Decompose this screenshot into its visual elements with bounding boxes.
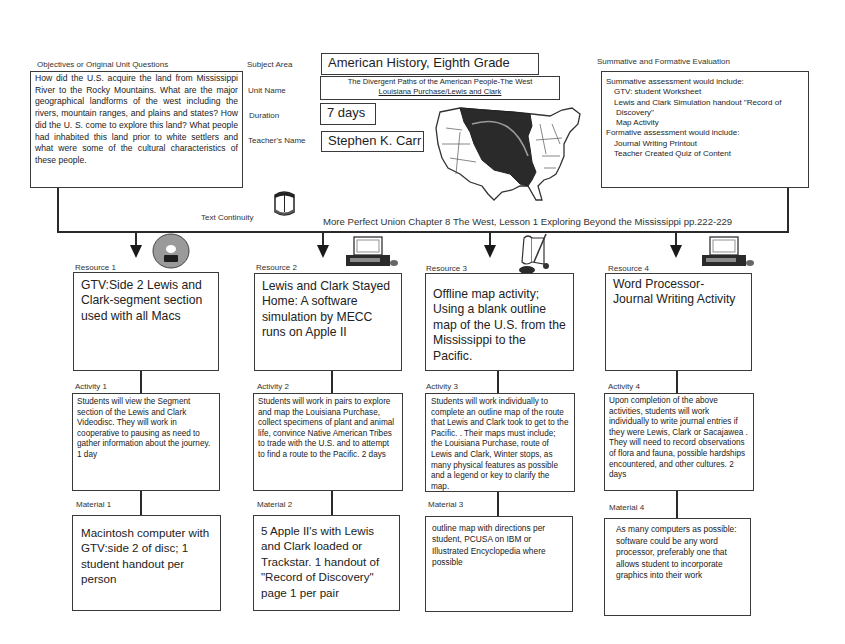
formative-item: Teacher Created Quiz of Content (606, 149, 804, 159)
objectives-text: How did the U.S. acquire the land from M… (35, 73, 238, 165)
activity-box: Students will view the Segment section o… (72, 393, 220, 491)
activity-label: Activity 1 (75, 382, 107, 391)
connector-drop (331, 371, 333, 393)
summative-item: GTV: student Worksheet (606, 87, 804, 97)
scroll-quill-icon (518, 232, 552, 276)
material-label: Material 2 (257, 500, 292, 509)
resource-text: Lewis and Clark Stayed Home: A software … (262, 279, 390, 339)
resource-label: Resource 2 (256, 263, 297, 272)
unit-name-field: The Divergent Paths of the American Peop… (320, 76, 560, 100)
resource-box: GTV:Side 2 Lewis and Clark-segment secti… (73, 272, 219, 371)
resource-label: Resource 4 (608, 264, 649, 273)
resource-label: Resource 1 (75, 263, 116, 272)
resource-box: Lewis and Clark Stayed Home: A software … (254, 273, 402, 371)
material-text: Macintosh computer with GTV:side 2 of di… (81, 526, 209, 585)
summative-item: Map Activity (606, 118, 804, 128)
activity-text: Upon completion of the above activities,… (609, 396, 748, 479)
formative-heading: Formative assessment would include: (606, 128, 804, 138)
evaluation-label: Summative and Formative Evaluation (597, 57, 730, 66)
material-label: Material 3 (428, 500, 463, 509)
activity-label: Activity 4 (608, 382, 640, 391)
arrow-down-icon (670, 245, 682, 258)
summative-item: Discovery" (606, 108, 804, 118)
resource-label: Resource 3 (426, 264, 467, 273)
duration-value: 7 days (327, 105, 365, 120)
duration-label: Duration (249, 111, 279, 120)
activity-label: Activity 2 (257, 382, 289, 391)
material-label: Material 1 (76, 500, 111, 509)
connector-drop (331, 491, 333, 516)
connector-drop (140, 371, 142, 393)
activity-label: Activity 3 (426, 382, 458, 391)
resource-text: GTV:Side 2 Lewis and Clark-segment secti… (81, 278, 202, 323)
videodisc-icon (151, 232, 191, 270)
material-text: 5 Apple II's with Lewis and Clark loaded… (261, 524, 379, 599)
resource-text: Word Processor- Journal Writing Activity (613, 277, 735, 306)
unit-name-line1: The Divergent Paths of the American Peop… (321, 77, 559, 87)
text-continuity-text: More Perfect Union Chapter 8 The West, L… (323, 216, 732, 227)
activity-box: Students will work in pairs to explore a… (253, 393, 403, 491)
activity-text: Students will work in pairs to explore a… (258, 397, 394, 459)
resource-text: Offline map activity; Using a blank outl… (433, 287, 566, 363)
summative-item: Lewis and Clark Simulation handout "Reco… (606, 98, 804, 108)
book-icon (272, 190, 297, 218)
arrow-down-icon (484, 245, 496, 258)
connector-drop (497, 492, 499, 516)
summative-heading: Summative assessment would include: (606, 77, 804, 87)
material-label: Material 4 (609, 503, 644, 512)
teacher-field: Stephen K. Carr (321, 131, 424, 152)
duration-field: 7 days (320, 103, 376, 125)
connector-left-vertical (57, 188, 59, 232)
connector-drop (140, 491, 142, 516)
resource-box: Offline map activity; Using a blank outl… (425, 273, 574, 371)
subject-area-value: American History, Eighth Grade (328, 55, 510, 70)
computer-icon (700, 236, 756, 268)
arrow-down-icon (130, 245, 142, 258)
subject-area-label: Subject Area (247, 60, 292, 69)
teacher-value: Stephen K. Carr (328, 133, 421, 148)
activity-text: Students will view the Segment section o… (77, 397, 210, 459)
material-box: 5 Apple II's with Lewis and Clark loaded… (253, 515, 400, 611)
subject-area-field: American History, Eighth Grade (321, 53, 539, 75)
connector-right-vertical (787, 188, 789, 232)
material-box: outline map with directions per student,… (425, 516, 573, 612)
teacher-label: Teacher's Name (248, 136, 306, 145)
evaluation-box: Summative assessment would include: GTV:… (601, 71, 809, 188)
objectives-label: Objectives or Original Unit Questions (37, 60, 168, 69)
material-box: Macintosh computer with GTV:side 2 of di… (72, 515, 221, 611)
objectives-box: How did the U.S. acquire the land from M… (30, 71, 243, 188)
connector-drop (676, 491, 678, 518)
activity-box: Students will work individually to compl… (425, 393, 575, 492)
connector-drop (676, 371, 678, 393)
activity-box: Upon completion of the above activities,… (604, 393, 754, 491)
unit-name-line2: Louisiana Purchase/Lewis and Clark (321, 87, 559, 97)
text-continuity-label: Text Continuity (201, 213, 253, 222)
computer-icon (344, 236, 400, 268)
material-text: outline map with directions per student,… (432, 523, 546, 567)
unit-name-label: Unit Name (248, 86, 286, 95)
arrow-down-icon (317, 245, 329, 258)
activity-text: Students will work individually to compl… (431, 397, 568, 491)
formative-item: Journal Writing Printout (606, 139, 804, 149)
resource-box: Word Processor- Journal Writing Activity (605, 273, 752, 371)
material-box: As many computers as possible: software … (604, 518, 751, 616)
connector-drop (497, 371, 499, 393)
us-map-louisiana-purchase-icon (432, 104, 592, 204)
material-text: As many computers as possible: software … (616, 524, 737, 580)
